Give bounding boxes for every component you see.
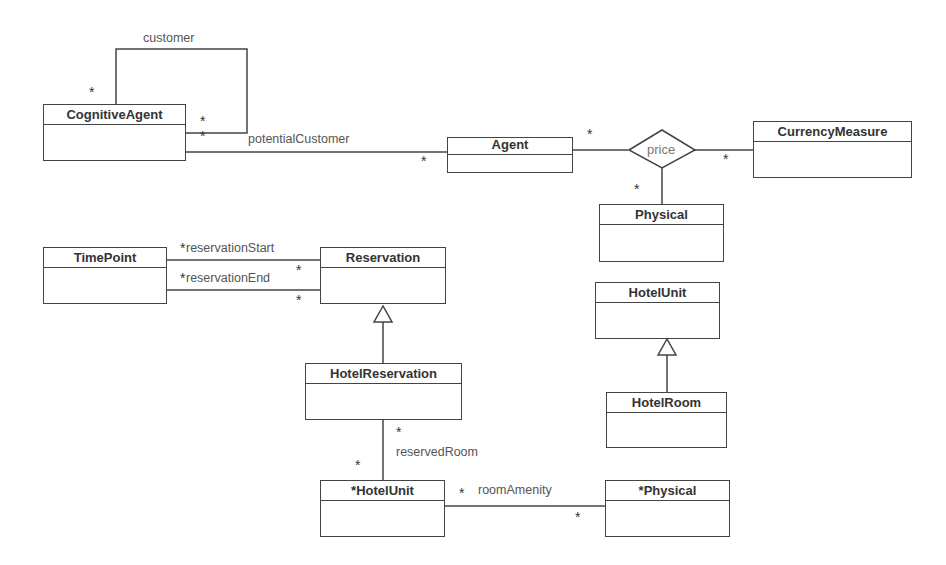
assoc-label-reserved-room: reservedRoom xyxy=(396,445,478,459)
multiplicity-marker: * xyxy=(396,427,401,437)
class-currency-measure[interactable]: CurrencyMeasure xyxy=(753,121,912,178)
class-hotel-room[interactable]: HotelRoom xyxy=(606,392,727,448)
multiplicity-marker: * xyxy=(296,295,301,305)
class-name: CurrencyMeasure xyxy=(754,122,911,142)
assoc-label-room-amenity: roomAmenity xyxy=(478,483,552,497)
class-physical-star[interactable]: *Physical xyxy=(605,480,730,537)
class-name: HotelUnit xyxy=(596,283,719,303)
multiplicity-marker: * xyxy=(634,184,639,194)
class-time-point[interactable]: TimePoint xyxy=(43,247,167,304)
class-cognitive-agent[interactable]: CognitiveAgent xyxy=(43,104,186,161)
class-physical[interactable]: Physical xyxy=(599,204,724,262)
class-name: HotelRoom xyxy=(607,393,726,413)
multiplicity-marker: * xyxy=(180,273,185,283)
assoc-label-reservation-start: reservationStart xyxy=(186,241,274,255)
multiplicity-marker: * xyxy=(355,460,360,470)
class-name: HotelReservation xyxy=(306,364,461,384)
class-name: Physical xyxy=(600,205,723,225)
class-name: Reservation xyxy=(321,248,445,268)
multiplicity-marker: * xyxy=(421,156,426,166)
assoc-label-potential-customer: potentialCustomer xyxy=(248,132,349,146)
multiplicity-marker: * xyxy=(89,87,94,97)
multiplicity-marker: * xyxy=(575,512,580,522)
multiplicity-marker: * xyxy=(296,265,301,275)
assoc-label-price: price xyxy=(647,142,675,157)
class-name: Agent xyxy=(448,138,572,155)
class-name: CognitiveAgent xyxy=(44,105,185,125)
multiplicity-marker: * xyxy=(200,116,205,126)
class-hotel-unit-star[interactable]: *HotelUnit xyxy=(320,480,445,537)
class-hotel-unit[interactable]: HotelUnit xyxy=(595,282,720,339)
multiplicity-marker: * xyxy=(200,131,205,141)
assoc-label-customer: customer xyxy=(143,31,194,45)
class-name: TimePoint xyxy=(44,248,166,268)
multiplicity-marker: * xyxy=(459,488,464,498)
assoc-label-reservation-end: reservationEnd xyxy=(186,271,270,285)
class-name: *HotelUnit xyxy=(321,481,444,501)
class-hotel-reservation[interactable]: HotelReservation xyxy=(305,363,462,420)
class-name: *Physical xyxy=(606,481,729,501)
multiplicity-marker: * xyxy=(180,243,185,253)
multiplicity-marker: * xyxy=(587,129,592,139)
class-agent[interactable]: Agent xyxy=(447,137,573,173)
class-reservation[interactable]: Reservation xyxy=(320,247,446,304)
multiplicity-marker: * xyxy=(723,154,728,164)
